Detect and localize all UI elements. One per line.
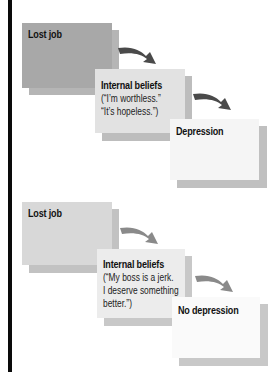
node-title: No depression [178,304,243,317]
belief-line: (“I’m worthless.” [101,92,167,105]
arrow-right-down-icon [118,46,160,66]
arrow-right-down-icon [193,92,235,112]
node-title: Lost job [28,207,95,220]
node-depression: Depression [170,119,259,180]
node-title: Lost job [28,28,95,41]
node-title: Internal beliefs [101,79,168,92]
arrow-right-down-icon [120,226,162,246]
belief-line: “It’s hopeless.”) [101,105,167,118]
belief-line: I deserve something [103,284,167,297]
belief-line: (“My boss is a jerk. [103,271,167,284]
node-title: Depression [176,125,242,138]
node-no-depression: No depression [172,297,260,358]
belief-line: better.”) [103,297,167,310]
left-border-bar [8,0,12,372]
arrow-right-down-icon [195,274,237,294]
node-title: Internal beliefs [103,258,168,271]
